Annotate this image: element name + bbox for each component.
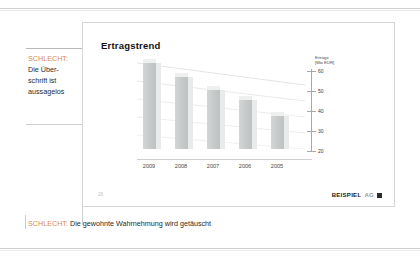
brand-suffix: AG [364,192,374,198]
brand-name: BEISPIEL [332,192,362,198]
y-tick-label-2: 40 [318,108,324,114]
annotation-left-label: SCHLECHT: [28,53,80,64]
brand-logo-icon [377,193,382,198]
chart-x-axis [137,159,312,160]
y-tick-label-1: 50 [318,88,324,94]
slide-frame: Ertragstrend [82,22,395,207]
annotation-bottom-label: SCHLECHT: [28,219,68,228]
y-tick-2 [307,111,316,112]
page-rule-bottom [0,248,420,249]
page-rule-top [0,8,420,9]
annotation-left-text: Die Über- schrift ist aussagelos [28,65,64,96]
annotation-left: SCHLECHT: Die Über- schrift ist aussagel… [28,53,80,98]
slide-branding: BEISPIEL AG [332,192,382,198]
chart-plot-area: 2009 2008 2007 2006 2005 Erträge [Mio EU… [137,59,305,159]
x-tick-label-2: 2007 [200,163,226,169]
slide-title: Ertragstrend [101,40,160,51]
bar-side [188,77,193,149]
y-axis-title: Erträge [Mio EUR] [315,55,334,66]
bar-front [207,90,220,149]
bar-front [271,116,284,149]
y-tick-0 [307,71,316,72]
annotation-bottom: SCHLECHT: Die gewohnte Wahrnehmung wird … [28,219,358,228]
x-tick-label-4: 2005 [264,163,290,169]
annotation-bottom-text: Die gewohnte Wahrnehmung wird getäuscht [70,219,211,228]
y-tick-3 [307,131,316,132]
bar-side [284,116,289,149]
bar-chart: 2009 2008 2007 2006 2005 Erträge [Mio EU… [137,59,347,189]
page-canvas: SCHLECHT: Die Über- schrift ist aussagel… [0,0,420,258]
bar-side [220,90,225,149]
y-tick-label-3: 30 [318,128,324,134]
y-tick-label-0: 60 [318,68,324,74]
bar-front [239,100,252,149]
y-tick-label-4: 20 [318,148,324,154]
page-rule-top-secondary [0,10,420,11]
bar-front [143,63,156,149]
y-tick-1 [307,91,316,92]
y-axis-line [311,69,312,151]
annotation-bottom-marker [25,215,26,229]
connector-line-horizontal [26,124,83,125]
page-rule-bottom-secondary [0,250,420,251]
bar-front [175,77,188,149]
leader-line-title [26,48,84,49]
x-tick-label-0: 2009 [136,163,162,169]
chart-y-axis: Erträge [Mio EUR] 60 50 40 30 20 [307,55,347,167]
y-tick-4 [307,151,316,152]
x-tick-label-1: 2008 [168,163,194,169]
bar-side [252,100,257,149]
bar-side [156,63,161,149]
slide-page-number: 26 [98,192,103,197]
x-tick-label-3: 2006 [232,163,258,169]
